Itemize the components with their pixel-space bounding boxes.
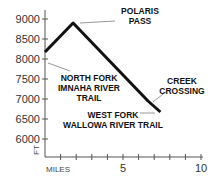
elevation-profile-chart: 9000850080007500700065006000FT 510MILES … <box>0 0 219 188</box>
y-tick-label: 7500 <box>16 73 40 85</box>
annotations: POLARISPASSNORTH FORKIMNAHA RIVERTRAILCR… <box>58 6 205 130</box>
leader-line <box>48 63 70 71</box>
y-tick-label: 6500 <box>16 113 40 125</box>
y-tick-label: 7000 <box>16 93 40 105</box>
annotation-polaris: POLARISPASS <box>121 6 159 26</box>
y-tick-label: 9000 <box>16 13 40 25</box>
leader-line <box>80 21 115 23</box>
x-tick-label: 5 <box>120 162 126 174</box>
y-axis-label: FT <box>32 145 41 155</box>
y-axis: 9000850080007500700065006000FT <box>16 10 48 157</box>
y-tick-label: 8000 <box>16 53 40 65</box>
x-axis: 510MILES <box>45 154 207 174</box>
annotation-leaders <box>48 21 167 113</box>
y-tick-label: 6000 <box>16 133 40 145</box>
x-axis-label: MILES <box>46 165 70 174</box>
annotation-north-fork: NORTH FORKIMNAHA RIVERTRAIL <box>58 73 120 103</box>
elevation-line <box>45 23 160 112</box>
y-tick-label: 8500 <box>16 33 40 45</box>
x-tick-label: 10 <box>195 162 207 174</box>
annotation-creek: CREEKCROSSING <box>159 76 205 96</box>
